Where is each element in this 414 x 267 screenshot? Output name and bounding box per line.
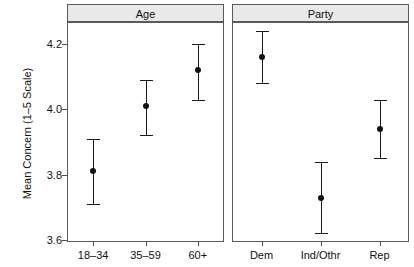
y-axis-tick-label: 3.6 [28, 235, 62, 245]
figure-dotplot-mean-concern: Mean Concern (1–5 Scale) 4.24.03.83.6 Ag… [0, 0, 414, 267]
error-bar-cap-lower [140, 135, 153, 136]
y-axis-tick-mark [62, 175, 67, 176]
error-bar-cap-upper [192, 44, 205, 45]
x-axis-tick-label: 60+ [188, 249, 207, 261]
x-axis-tick-label: 18–34 [78, 249, 109, 261]
error-bar-cap-lower [315, 233, 328, 234]
x-axis-tick-mark [198, 241, 199, 246]
x-axis-tick-label: Dem [250, 249, 273, 261]
y-axis-tick-label: 4.2 [28, 39, 62, 49]
data-point [259, 54, 265, 60]
y-axis-tick-label: 4.0 [28, 104, 62, 114]
error-bar-cap-upper [256, 31, 269, 32]
x-axis-tick-mark [93, 241, 94, 246]
x-axis-tick-mark [321, 241, 322, 246]
panel-strip-age: Age [67, 4, 224, 22]
x-axis-tick-mark [146, 241, 147, 246]
data-point [143, 103, 149, 109]
y-axis-tick-mark [62, 240, 67, 241]
error-bar-cap-upper [374, 100, 387, 101]
y-axis-tick-labels: 4.24.03.83.6 [0, 0, 62, 267]
error-bar-cap-lower [256, 83, 269, 84]
error-bar-cap-upper [315, 162, 328, 163]
data-point [195, 67, 201, 73]
error-bar-cap-upper [87, 139, 100, 140]
y-axis-tick-mark [62, 109, 67, 110]
error-bar-cap-upper [140, 80, 153, 81]
error-bar-cap-lower [374, 158, 387, 159]
x-axis-tick-label: Rep [369, 249, 389, 261]
error-bar-cap-lower [192, 100, 205, 101]
panel-strip-label-party: Party [233, 5, 408, 23]
panel-strip-party: Party [232, 4, 409, 22]
x-axis-tick-mark [380, 241, 381, 246]
y-axis-tick-label: 3.8 [28, 170, 62, 180]
panel-strip-label-age: Age [68, 5, 223, 23]
x-axis-tick-label: Ind/Othr [301, 249, 341, 261]
y-axis-tick-mark [62, 44, 67, 45]
data-point [377, 126, 383, 132]
x-axis-tick-mark [262, 241, 263, 246]
x-axis-tick-label: 35–59 [130, 249, 161, 261]
error-bar-cap-lower [87, 204, 100, 205]
data-point [318, 195, 324, 201]
